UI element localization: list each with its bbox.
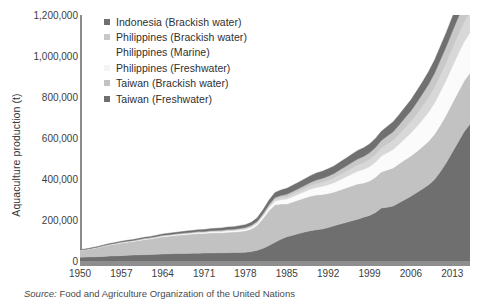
x-axis-tick-labels: 1950195719641971197819851992199920062013 xyxy=(80,268,470,284)
x-tick-label: 1971 xyxy=(193,268,215,279)
legend-label: Philippines (Marine) xyxy=(116,46,210,58)
legend-swatch-icon xyxy=(104,65,110,71)
x-tick-label: 1964 xyxy=(152,268,174,279)
y-tick-label: 800,000 xyxy=(16,92,78,103)
legend-label: Taiwan (Freshwater) xyxy=(116,93,212,105)
y-tick-label: 0 xyxy=(16,256,78,267)
x-tick-label: 2006 xyxy=(400,268,422,279)
chart-legend: Indonesia (Brackish water)Philippines (B… xyxy=(104,14,304,106)
legend-swatch-icon xyxy=(104,19,110,25)
y-tick-label: 400,000 xyxy=(16,174,78,185)
y-tick-label: 1,200,000 xyxy=(16,10,78,21)
y-tick-label: 200,000 xyxy=(16,215,78,226)
legend-item: Taiwan (Freshwater) xyxy=(104,91,304,106)
source-text: Food and Agriculture Organization of the… xyxy=(59,288,295,299)
legend-label: Indonesia (Brackish water) xyxy=(116,16,242,28)
legend-item: Philippines (Brackish water) xyxy=(104,29,304,44)
x-tick-label: 2013 xyxy=(441,268,463,279)
legend-label: Taiwan (Brackish water) xyxy=(116,77,229,89)
x-tick-label: 1978 xyxy=(234,268,256,279)
x-tick-label: 1992 xyxy=(317,268,339,279)
legend-label: Philippines (Brackish water) xyxy=(116,31,247,43)
source-caption: Source: Food and Agriculture Organizatio… xyxy=(24,288,295,299)
source-label: Source: xyxy=(24,288,57,299)
x-tick-label: 1999 xyxy=(358,268,380,279)
y-tick-label: 1,000,000 xyxy=(16,51,78,62)
legend-item: Philippines (Freshwater) xyxy=(104,60,304,75)
legend-swatch-icon xyxy=(104,34,110,40)
legend-swatch-icon xyxy=(104,80,110,86)
y-tick-label: 600,000 xyxy=(16,133,78,144)
legend-item: Indonesia (Brackish water) xyxy=(104,14,304,29)
x-axis-bar xyxy=(80,261,470,266)
legend-item: Philippines (Marine) xyxy=(104,45,304,60)
legend-swatch-icon xyxy=(104,96,110,102)
x-tick-label: 1950 xyxy=(69,268,91,279)
x-tick-label: 1985 xyxy=(276,268,298,279)
y-axis-tick-labels: 1,200,0001,000,000800,000600,000400,0002… xyxy=(16,15,78,261)
x-tick-label: 1957 xyxy=(110,268,132,279)
legend-swatch-icon xyxy=(104,49,110,55)
chart-figure: Aquaculture production (t) 1,200,0001,00… xyxy=(0,0,484,307)
legend-label: Philippines (Freshwater) xyxy=(116,62,230,74)
legend-item: Taiwan (Brackish water) xyxy=(104,76,304,91)
